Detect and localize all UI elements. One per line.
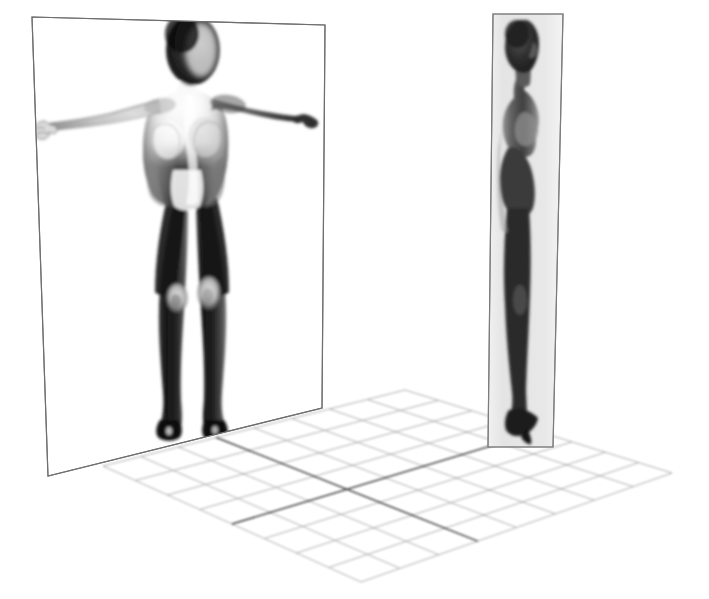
pelvis-highlight (171, 170, 203, 211)
grid-line (329, 463, 639, 568)
side-knee-highlight (513, 285, 527, 315)
right-knee-core (203, 288, 213, 304)
grid-line (297, 452, 606, 553)
front-view-plane (32, 15, 325, 476)
left-ankle-spot (166, 427, 172, 435)
model-viewport: 3D Human Body Model Viewport Grayscale 3… (0, 0, 709, 599)
right-ankle-spot (212, 426, 218, 434)
left-knee-core (171, 294, 181, 308)
side-hair-mass (505, 20, 529, 48)
grid-line (200, 421, 505, 509)
side-view-plane (488, 14, 563, 447)
scene-svg (0, 0, 709, 599)
grid-line (361, 473, 672, 582)
